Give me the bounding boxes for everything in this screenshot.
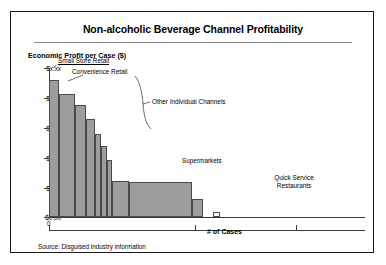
slide-frame: Non-alcoholic Beverage Channel Profitabi… <box>10 11 374 253</box>
bar <box>129 182 192 217</box>
plot-area: $x.xx $x.xx $x.xx $x.xx $x.xx $0.00 <box>38 62 365 222</box>
x-axis-title: # of Cases <box>207 228 242 235</box>
annotation-qsr-line-1: Quick Service <box>266 174 322 182</box>
annotation-convenience-retail: Convenience Retail <box>72 68 127 76</box>
bar <box>49 80 59 217</box>
page-title: Non-alcoholic Beverage Channel Profitabi… <box>11 23 375 35</box>
annotation-qsr-line-2: Restaurants <box>266 182 322 190</box>
source-note: Source: Disguised industry information <box>38 243 146 250</box>
annotation-quick-service-restaurants: Quick Service Restaurants <box>266 174 322 190</box>
bar <box>213 212 220 217</box>
slide-canvas: Non-alcoholic Beverage Channel Profitabi… <box>0 0 386 265</box>
bar <box>112 181 129 217</box>
x-origin-label: 0 <box>47 220 51 227</box>
bar <box>59 94 74 217</box>
x-tick-mark <box>195 225 196 231</box>
bar <box>192 199 203 217</box>
annotation-supermarkets: Supermarkets <box>182 157 222 165</box>
annotation-other-individual-channels: Other Individual Channels <box>152 98 226 106</box>
bar <box>75 105 86 217</box>
title-divider <box>34 42 352 43</box>
baseline <box>49 217 365 218</box>
annotation-small-store-retail: Small Store Retail <box>58 57 109 65</box>
x-tick-mark <box>296 225 297 231</box>
bar <box>86 119 96 217</box>
